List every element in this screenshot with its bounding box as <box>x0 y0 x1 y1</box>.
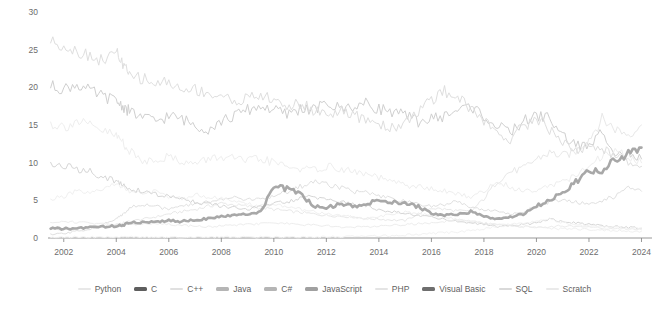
legend-item-label: JavaScript <box>322 284 362 294</box>
y-tick-label: 10 <box>29 158 39 168</box>
y-tick-label: 0 <box>33 233 38 243</box>
legend-item-c-[interactable]: C# <box>264 284 292 294</box>
legend-item-php[interactable]: PHP <box>375 284 409 294</box>
legend-item-visual-basic[interactable]: Visual Basic <box>422 284 485 294</box>
x-tick-label: 2004 <box>107 247 126 257</box>
y-tick-label: 30 <box>29 7 39 17</box>
legend-swatch-icon <box>170 288 183 291</box>
series-line-java <box>51 37 642 168</box>
x-tick-label: 2020 <box>527 247 546 257</box>
x-tick-label: 2024 <box>632 247 651 257</box>
y-tick-label: 25 <box>29 45 39 55</box>
legend-swatch-icon <box>375 288 388 291</box>
legend-item-label: C# <box>281 284 292 294</box>
legend-swatch-icon <box>305 287 318 290</box>
line-chart-plot: 051015202530 200220042006200820102012201… <box>0 0 669 268</box>
legend-swatch-icon <box>134 287 147 290</box>
x-axis-tick-marks <box>64 238 642 242</box>
legend-item-java[interactable]: Java <box>216 284 251 294</box>
chart-legend: PythonCC++JavaC#JavaScriptPHPVisual Basi… <box>0 276 669 302</box>
x-tick-label: 2008 <box>212 247 231 257</box>
legend-item-c-[interactable]: C++ <box>170 284 203 294</box>
x-tick-label: 2010 <box>264 247 283 257</box>
series-lines <box>51 37 642 238</box>
x-tick-label: 2012 <box>317 247 336 257</box>
series-line-c <box>51 81 642 161</box>
legend-swatch-icon <box>422 287 435 290</box>
legend-item-label: PHP <box>392 284 409 294</box>
legend-swatch-icon <box>499 288 512 291</box>
legend-item-label: Java <box>233 284 251 294</box>
x-tick-label: 2006 <box>159 247 178 257</box>
legend-swatch-icon <box>264 287 277 290</box>
x-tick-label: 2018 <box>474 247 493 257</box>
legend-swatch-icon <box>78 288 91 291</box>
legend-swatch-icon <box>546 288 559 291</box>
y-tick-label: 20 <box>29 82 39 92</box>
y-tick-label: 5 <box>33 195 38 205</box>
legend-item-c[interactable]: C <box>134 284 157 294</box>
chart-container: 051015202530 200220042006200820102012201… <box>0 0 669 310</box>
legend-item-label: Python <box>95 284 121 294</box>
x-tick-label: 2016 <box>422 247 441 257</box>
x-tick-label: 2014 <box>369 247 388 257</box>
y-axis-tick-labels: 051015202530 <box>29 7 39 243</box>
y-tick-label: 15 <box>29 120 39 130</box>
legend-swatch-icon <box>216 287 229 290</box>
legend-item-label: SQL <box>516 284 533 294</box>
legend-item-python[interactable]: Python <box>78 284 121 294</box>
legend-item-label: C <box>151 284 157 294</box>
legend-item-label: Visual Basic <box>439 284 485 294</box>
legend-item-label: C++ <box>187 284 203 294</box>
x-tick-label: 2022 <box>580 247 599 257</box>
legend-item-scratch[interactable]: Scratch <box>546 284 592 294</box>
x-tick-label: 2002 <box>54 247 73 257</box>
legend-item-javascript[interactable]: JavaScript <box>305 284 362 294</box>
legend-item-sql[interactable]: SQL <box>499 284 533 294</box>
x-axis-tick-labels: 2002200420062008201020122014201620182020… <box>54 247 651 257</box>
legend-item-label: Scratch <box>563 284 592 294</box>
